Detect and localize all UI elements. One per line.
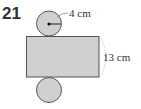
height-label: 13 cm bbox=[103, 51, 131, 63]
radius-label: 4 cm bbox=[69, 7, 91, 19]
center-dot bbox=[47, 22, 50, 25]
lateral-rectangle bbox=[27, 37, 100, 78]
bottom-circle bbox=[37, 78, 62, 103]
cylinder-net-diagram: 4 cm 13 cm bbox=[0, 0, 141, 109]
